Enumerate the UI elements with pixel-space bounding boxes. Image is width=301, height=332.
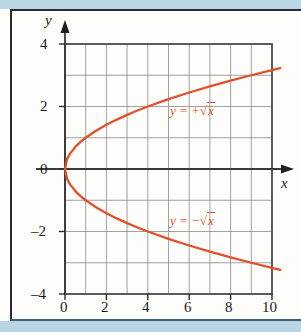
upper-curve-radicand: x — [207, 102, 215, 118]
y-axis-label: y — [45, 12, 52, 29]
x-axis-arrow-icon — [281, 165, 294, 174]
lower-curve-radicand: x — [207, 212, 215, 228]
x-tick-label-10: 10 — [262, 299, 277, 316]
x-tick-label-2: 2 — [101, 299, 109, 316]
upper-curve-annotation-lead: y = + — [170, 103, 200, 118]
upper-curve-radical-icon: √ — [200, 103, 207, 118]
lower-curve-radical-icon: √ — [200, 213, 207, 228]
figure-container: y x 4 2 0 –2 –4 0 2 4 6 8 10 y = +√x y =… — [0, 0, 301, 332]
x-tick-label-6: 6 — [184, 299, 192, 316]
y-tick-label-4: 4 — [40, 36, 48, 53]
upper-curve-annotation: y = +√x — [170, 103, 215, 119]
x-axis-label: x — [281, 175, 288, 192]
x-tick-label-0: 0 — [60, 299, 68, 316]
lower-curve-annotation: y = −√x — [170, 213, 215, 229]
y-tick-label-0: 0 — [40, 161, 48, 178]
y-tick-label-2: 2 — [40, 98, 48, 115]
lower-curve-annotation-lead: y = − — [170, 213, 200, 228]
y-axis-arrow-icon — [61, 20, 70, 33]
x-tick-label-8: 8 — [225, 299, 233, 316]
y-tick-label-neg2: –2 — [31, 223, 46, 240]
y-tick-label-neg4: –4 — [31, 286, 46, 303]
x-tick-label-4: 4 — [142, 299, 150, 316]
